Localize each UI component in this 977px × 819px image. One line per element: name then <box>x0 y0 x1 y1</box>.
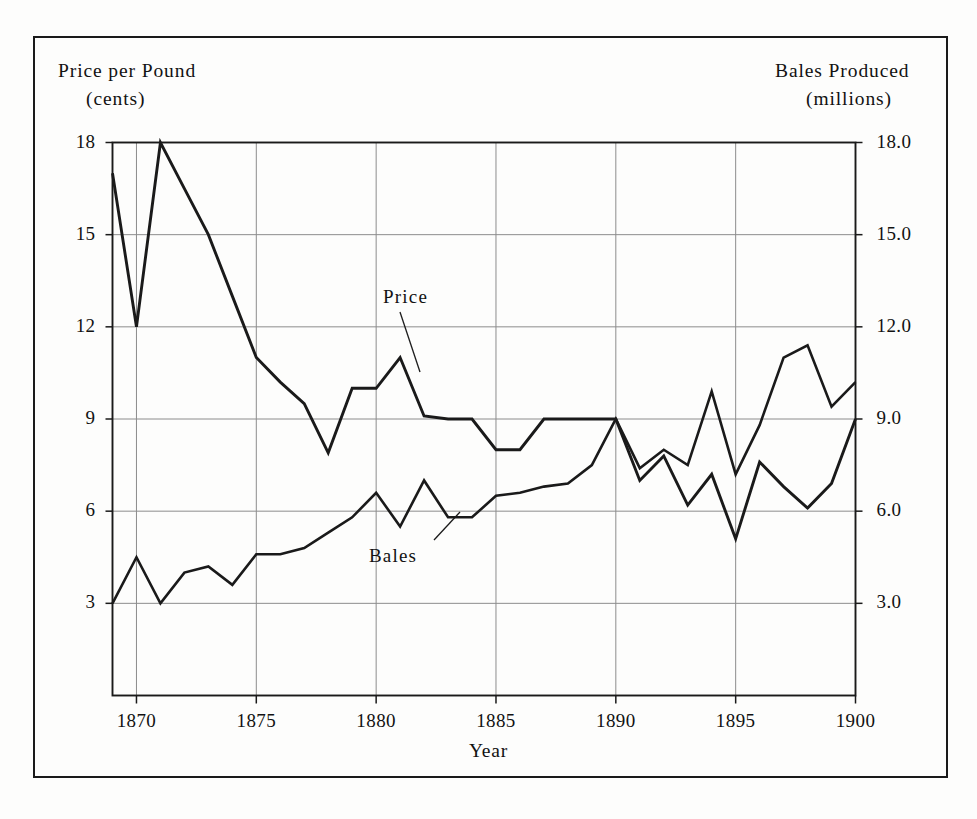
bales-series-label: Bales <box>369 545 417 567</box>
gridlines-group <box>113 143 856 696</box>
series-line-bales <box>113 345 856 603</box>
y-axis-right-tick-label: 6.0 <box>877 499 947 521</box>
y-axis-right-tick-label: 12.0 <box>877 315 947 337</box>
x-axis-tick-label: 1890 <box>576 710 656 732</box>
price-series-label: Price <box>383 286 428 308</box>
y-axis-right-tick-label: 15.0 <box>877 223 947 245</box>
x-axis-title: Year <box>0 740 977 762</box>
figure-page: Price per Pound (cents) Bales Produced (… <box>0 0 977 819</box>
annotation-leader-lines <box>400 312 460 540</box>
data-series-group <box>113 143 856 604</box>
y-axis-left-tick-label: 3 <box>50 591 96 613</box>
y-axis-left-tick-label: 18 <box>50 131 96 153</box>
x-axis-tick-label: 1875 <box>216 710 296 732</box>
series-line-price <box>113 143 856 539</box>
chart-plot-area <box>0 0 977 819</box>
y-axis-right-tick-label: 3.0 <box>877 591 947 613</box>
x-axis-tick-label: 1895 <box>696 710 776 732</box>
y-axis-left-tick-label: 6 <box>50 499 96 521</box>
y-axis-right-tick-label: 9.0 <box>877 407 947 429</box>
y-axis-left-tick-label: 9 <box>50 407 96 429</box>
axis-ticks-group <box>106 143 863 704</box>
x-axis-tick-label: 1870 <box>96 710 176 732</box>
x-axis-tick-label: 1885 <box>456 710 536 732</box>
y-axis-left-tick-label: 15 <box>50 223 96 245</box>
y-axis-right-tick-label: 18.0 <box>877 131 947 153</box>
x-axis-tick-label: 1880 <box>336 710 416 732</box>
x-axis-tick-label: 1900 <box>816 710 896 732</box>
y-axis-left-tick-label: 12 <box>50 315 96 337</box>
